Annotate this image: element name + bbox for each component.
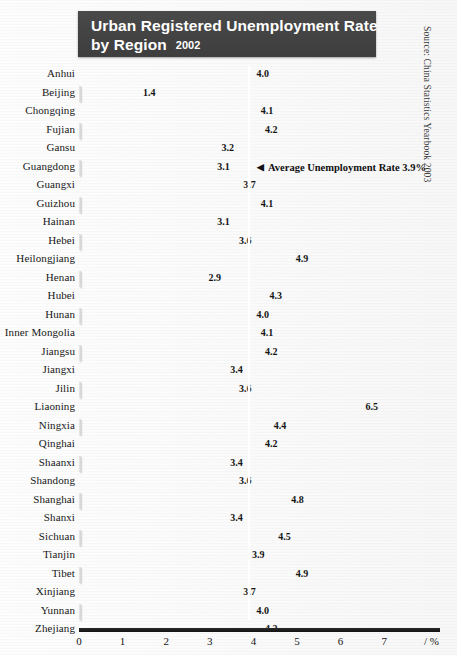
category-label: Hebei: [0, 234, 75, 246]
bar-value-label: 4.1: [261, 327, 274, 338]
category-label: Hunan: [0, 308, 75, 320]
category-label: Shanghai: [0, 493, 75, 505]
bar-value-label: 4.1: [261, 105, 274, 116]
bar[interactable]: [79, 604, 81, 620]
category-label: Anhui: [0, 67, 75, 79]
bar[interactable]: [79, 308, 81, 324]
bar-container: [79, 68, 253, 82]
bar-container: [79, 401, 362, 415]
chart-row: Guangxi3.7: [0, 177, 457, 196]
bar-value-label: 4.0: [256, 605, 269, 616]
bar-value-label: 4.1: [261, 198, 274, 209]
x-axis-line: [79, 628, 440, 632]
bar-value-label: 3.2: [222, 142, 235, 153]
chart-row: Jiangsu4.2: [0, 344, 457, 363]
bar-container: [79, 549, 249, 563]
bar-container: [79, 216, 214, 230]
category-label: Xinjiang: [0, 585, 75, 597]
category-label: Fujian: [0, 123, 75, 135]
bar-value-label: 4.2: [265, 346, 278, 357]
bar[interactable]: [79, 419, 81, 435]
bar-value-label: 4.4: [274, 420, 287, 431]
chart-row: Henan2.9: [0, 270, 457, 289]
chart-plot-area: Anhui4.0Beijing1.4Chongqing4.1Fujian4.2G…: [0, 66, 457, 626]
category-label: Henan: [0, 271, 75, 283]
chart-row: Liaoning6.5: [0, 399, 457, 418]
chart-row: Jilin3.6: [0, 381, 457, 400]
x-axis-tick-label: 7: [381, 635, 387, 647]
bar-container: [79, 382, 236, 396]
bar-container: [79, 512, 227, 526]
x-axis-tick-label: 3: [207, 635, 213, 647]
chart-row: Heilongjiang4.9: [0, 251, 457, 270]
bar-container: [79, 493, 288, 507]
bar-container: [79, 253, 293, 267]
category-label: Guizhou: [0, 197, 75, 209]
bar-container: [79, 234, 236, 248]
bar[interactable]: [79, 382, 81, 398]
bar-container: [79, 345, 262, 359]
chart-title-year: 2002: [176, 39, 200, 51]
bar-container: [79, 142, 219, 156]
bar[interactable]: [79, 567, 81, 583]
bar[interactable]: [79, 345, 81, 361]
category-label: Shaanxi: [0, 456, 75, 468]
chart-title-line-2: by Region2002: [91, 36, 200, 54]
bar-container: [79, 160, 214, 174]
category-label: Liaoning: [0, 400, 75, 412]
chart-row: Chongqing4.1: [0, 103, 457, 122]
bar[interactable]: [79, 493, 81, 509]
average-annotation-label: Average Unemployment Rate 3.9%: [268, 162, 426, 173]
bar[interactable]: [79, 86, 81, 102]
bar-value-label: 4.2: [265, 438, 278, 449]
chart-row: Hebei3.6: [0, 233, 457, 252]
x-axis-tick-label: 1: [120, 635, 126, 647]
category-label: Yunnan: [0, 604, 75, 616]
chart-title-line-1: Urban Registered Unemployment Rate: [91, 17, 378, 35]
chart-row: Hainan3.1: [0, 214, 457, 233]
chart-row: Beijing1.4: [0, 85, 457, 104]
bar-value-label: 4.5: [278, 531, 291, 542]
average-annotation: ◀Average Unemployment Rate 3.9%: [257, 162, 426, 173]
chart-row: Shaanxi3.4: [0, 455, 457, 474]
category-label: Shanxi: [0, 511, 75, 523]
bar[interactable]: [79, 234, 81, 250]
bar-value-label: 4.3: [269, 290, 282, 301]
chart-row: Hubei4.3: [0, 288, 457, 307]
category-label: Guangdong: [0, 160, 75, 172]
category-label: Sichuan: [0, 530, 75, 542]
x-axis-tick-label: 6: [338, 635, 344, 647]
chart-title-subject: by Region: [91, 36, 167, 53]
bar[interactable]: [79, 123, 81, 139]
bar[interactable]: [79, 271, 81, 287]
chart-row: Fujian4.2: [0, 122, 457, 141]
x-axis-unit-label: / %: [424, 635, 439, 647]
bar-value-label: 4.9: [296, 568, 309, 579]
category-label: Qinghai: [0, 437, 75, 449]
bar-value-label: 4.2: [265, 124, 278, 135]
chart-row: Jiangxi3.4: [0, 362, 457, 381]
chart-row: Inner Mongolia4.1: [0, 325, 457, 344]
bar-value-label: 3.4: [230, 364, 243, 375]
bar[interactable]: [79, 160, 81, 176]
bar-container: [79, 586, 240, 600]
bar-value-label: 4.0: [256, 68, 269, 79]
category-label: Shandong: [0, 474, 75, 486]
chart-row: Guizhou4.1: [0, 196, 457, 215]
bar-container: [79, 105, 258, 119]
bar[interactable]: [79, 197, 81, 213]
chart-row: Anhui4.0: [0, 66, 457, 85]
category-label: Heilongjiang: [0, 252, 75, 264]
chart-row: Tibet4.9: [0, 566, 457, 585]
bar-container: [79, 197, 258, 211]
left-arrow-icon: ◀: [257, 162, 264, 172]
bar-container: [79, 475, 236, 489]
bar-value-label: 6.5: [365, 401, 378, 412]
bar[interactable]: [79, 456, 81, 472]
chart-row: Shanghai4.8: [0, 492, 457, 511]
category-label: Gansu: [0, 141, 75, 153]
category-label: Ningxia: [0, 419, 75, 431]
chart-row: Qinghai4.2: [0, 436, 457, 455]
category-label: Hubei: [0, 289, 75, 301]
bar[interactable]: [79, 530, 81, 546]
